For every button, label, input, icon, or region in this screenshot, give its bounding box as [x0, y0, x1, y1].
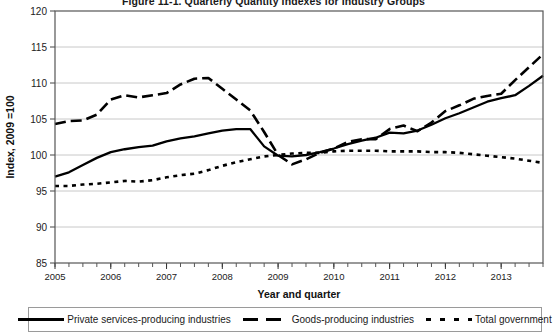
svg-text:2011: 2011	[379, 271, 399, 282]
chart-plot-area: 859095100105110115120 200520062007200820…	[0, 0, 547, 305]
plot-frame	[55, 11, 543, 263]
legend-label-private-services: Private services-producing industries	[67, 314, 230, 325]
chart-legend: Private services-producing industries Go…	[28, 307, 542, 332]
svg-text:2013: 2013	[491, 271, 512, 282]
y-axis-title: Index, 2009 =100	[4, 95, 16, 178]
x-axis-ticks: 200520062007200820092010201120122013	[44, 263, 543, 282]
svg-text:90: 90	[36, 222, 48, 233]
legend-swatch-solid-icon	[18, 318, 64, 321]
svg-text:100: 100	[30, 150, 47, 161]
legend-swatch-dashed-icon	[243, 318, 289, 321]
svg-text:110: 110	[31, 78, 47, 89]
svg-text:2009: 2009	[268, 271, 289, 282]
legend-swatch-dotted-icon	[426, 318, 472, 321]
svg-text:2007: 2007	[156, 271, 177, 282]
svg-text:120: 120	[30, 6, 47, 17]
svg-text:2005: 2005	[44, 271, 65, 282]
gridlines-group	[55, 47, 543, 227]
legend-label-total-government: Total government	[475, 314, 552, 325]
legend-entry-goods-producing: Goods-producing industries	[237, 314, 420, 325]
svg-text:115: 115	[31, 42, 47, 53]
legend-entry-private-services: Private services-producing industries	[12, 314, 236, 325]
svg-text:105: 105	[30, 114, 47, 125]
svg-text:2008: 2008	[212, 271, 233, 282]
svg-text:2012: 2012	[435, 271, 456, 282]
y-axis-ticks: 859095100105110115120	[30, 6, 55, 269]
x-axis-title: Year and quarter	[258, 288, 341, 300]
legend-label-goods-producing: Goods-producing industries	[292, 314, 414, 325]
svg-text:2010: 2010	[323, 271, 344, 282]
legend-entry-total-government: Total government	[420, 314, 557, 325]
svg-text:85: 85	[36, 258, 48, 269]
svg-text:2006: 2006	[100, 271, 121, 282]
svg-text:95: 95	[36, 186, 48, 197]
data-series-group	[55, 54, 543, 186]
